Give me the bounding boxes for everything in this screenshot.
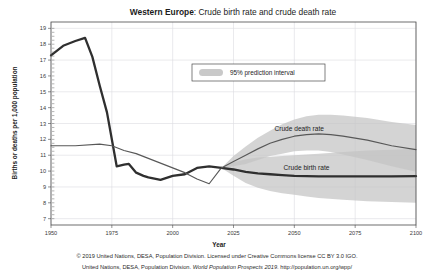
y-tick-label: 10 bbox=[40, 168, 46, 174]
x-tick-label: 2025 bbox=[227, 230, 239, 236]
chart-title: Western Europe: Crude birth rate and cru… bbox=[130, 7, 337, 17]
y-axis-title: Births or deaths per 1,000 population bbox=[11, 66, 19, 179]
y-tick-marks bbox=[48, 28, 51, 218]
chart-figure: 1950197520002025205020752100 78910111213… bbox=[0, 0, 435, 278]
y-tick-label: 14 bbox=[40, 105, 46, 111]
x-tick-label: 2075 bbox=[349, 230, 361, 236]
series-annotation: Crude birth rate bbox=[284, 164, 330, 171]
chart-title-rest: : Crude birth rate and crude death rate bbox=[194, 7, 337, 17]
y-tick-label: 13 bbox=[40, 121, 46, 127]
chart-title-region: Western Europe bbox=[130, 7, 194, 17]
x-tick-labels: 1950197520002025205020752100 bbox=[45, 230, 422, 236]
footer-line-1: © 2019 United Nations, DESA, Population … bbox=[76, 253, 357, 259]
footer-line-2-post: . http://population.un.org/wpp/ bbox=[277, 264, 352, 270]
y-tick-label: 18 bbox=[40, 41, 46, 47]
y-tick-label: 11 bbox=[40, 152, 46, 158]
y-tick-label: 19 bbox=[40, 25, 46, 31]
x-axis-title: Year bbox=[212, 241, 226, 248]
footer-line-2: United Nations, DESA, Population Divisio… bbox=[82, 264, 352, 270]
footer-line-2-pre: United Nations, DESA, Population Divisio… bbox=[82, 264, 193, 270]
footer-publication-title: World Population Prospects 2019 bbox=[193, 264, 278, 270]
y-tick-label: 17 bbox=[40, 57, 46, 63]
y-tick-label: 12 bbox=[40, 136, 46, 142]
legend-entry-label: 95% prediction interval bbox=[230, 69, 295, 77]
x-tick-label: 2000 bbox=[166, 230, 178, 236]
series-annotation: Crude death rate bbox=[274, 125, 324, 132]
y-tick-labels: 78910111213141516171819 bbox=[40, 25, 46, 221]
x-tick-marks bbox=[51, 225, 416, 228]
x-tick-label: 1950 bbox=[45, 230, 57, 236]
x-tick-label: 2100 bbox=[410, 230, 422, 236]
y-tick-label: 15 bbox=[40, 89, 46, 95]
y-tick-label: 16 bbox=[40, 73, 46, 79]
x-tick-label: 1975 bbox=[106, 230, 118, 236]
y-tick-label: 9 bbox=[43, 184, 46, 190]
x-tick-label: 2050 bbox=[288, 230, 300, 236]
y-tick-label: 7 bbox=[43, 216, 46, 222]
legend-band-swatch bbox=[199, 69, 223, 76]
chart-legend: 95% prediction interval bbox=[192, 64, 325, 81]
y-tick-label: 8 bbox=[43, 200, 46, 206]
